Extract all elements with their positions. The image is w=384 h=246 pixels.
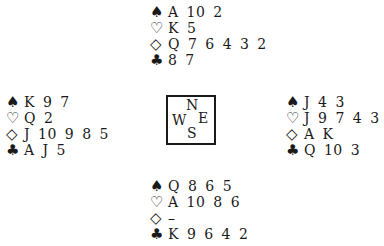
west-hand: ♠K 9 7 ♡Q 2 ◇J 10 9 8 5 ♣A J 5 — [6, 94, 109, 158]
west-hearts: ♡Q 2 — [6, 110, 109, 126]
spade-icon: ♠ — [6, 94, 24, 110]
heart-icon: ♡ — [6, 110, 24, 126]
club-icon: ♣ — [286, 142, 304, 158]
compass-south: S — [187, 125, 197, 141]
compass-west: W — [172, 112, 186, 128]
east-diamonds: ◇A K — [286, 126, 380, 142]
north-hand: ♠A 10 2 ♡K 5 ◇Q 7 6 4 3 2 ♣8 7 — [150, 4, 267, 68]
spade-icon: ♠ — [150, 178, 168, 194]
south-diamonds: ◇– — [150, 210, 248, 226]
west-spades: ♠K 9 7 — [6, 94, 109, 110]
club-icon: ♣ — [150, 52, 168, 68]
east-clubs: ♣Q 10 3 — [286, 142, 380, 158]
diamond-icon: ◇ — [6, 126, 24, 142]
north-spades: ♠A 10 2 — [150, 4, 267, 20]
west-clubs: ♣A J 5 — [6, 142, 109, 158]
spade-icon: ♠ — [286, 94, 304, 110]
club-icon: ♣ — [150, 226, 168, 242]
east-spades: ♠J 4 3 — [286, 94, 380, 110]
compass-box: N W E S — [166, 95, 216, 145]
diamond-icon: ◇ — [150, 210, 168, 226]
spade-icon: ♠ — [150, 4, 168, 20]
east-hand: ♠J 4 3 ♡J 9 7 4 3 ◇A K ♣Q 10 3 — [286, 94, 380, 158]
east-hearts: ♡J 9 7 4 3 — [286, 110, 380, 126]
club-icon: ♣ — [6, 142, 24, 158]
north-clubs: ♣8 7 — [150, 52, 267, 68]
compass-north: N — [186, 97, 198, 113]
north-diamonds: ◇Q 7 6 4 3 2 — [150, 36, 267, 52]
heart-icon: ♡ — [150, 194, 168, 210]
south-hand: ♠Q 8 6 5 ♡A 10 8 6 ◇– ♣K 9 6 4 2 — [150, 178, 248, 242]
heart-icon: ♡ — [286, 110, 304, 126]
south-hearts: ♡A 10 8 6 — [150, 194, 248, 210]
diamond-icon: ◇ — [150, 36, 168, 52]
south-clubs: ♣K 9 6 4 2 — [150, 226, 248, 242]
north-hearts: ♡K 5 — [150, 20, 267, 36]
west-diamonds: ◇J 10 9 8 5 — [6, 126, 109, 142]
heart-icon: ♡ — [150, 20, 168, 36]
diamond-icon: ◇ — [286, 126, 304, 142]
south-spades: ♠Q 8 6 5 — [150, 178, 248, 194]
compass-east: E — [198, 110, 208, 126]
